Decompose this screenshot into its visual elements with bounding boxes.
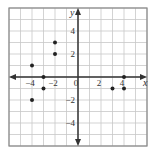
x-tick-label: 0 (74, 78, 79, 88)
data-point (111, 87, 115, 91)
data-point (30, 64, 34, 68)
data-point (42, 87, 46, 91)
x-tick-label: −2 (48, 78, 58, 88)
y-tick-label: −4 (65, 118, 75, 128)
x-tick-label: −4 (25, 78, 35, 88)
data-point (30, 98, 34, 102)
data-point (53, 41, 57, 45)
data-point (42, 75, 46, 79)
data-point (122, 87, 126, 91)
axes (9, 8, 147, 146)
y-tick-label: 2 (71, 49, 76, 59)
x-axis-label: x (142, 77, 148, 88)
data-point (53, 52, 57, 56)
y-tick-label: −2 (65, 95, 75, 105)
x-tick-label: 2 (97, 78, 102, 88)
y-tick-label: 4 (71, 26, 76, 36)
y-axis-label: y (69, 7, 75, 18)
y-axis-arrow-up (75, 8, 81, 15)
x-axis-arrow-left (9, 74, 16, 80)
coordinate-plane: −4−202442−2−4 x y (0, 0, 153, 152)
y-axis-arrow-down (75, 139, 81, 146)
data-point (122, 75, 126, 79)
